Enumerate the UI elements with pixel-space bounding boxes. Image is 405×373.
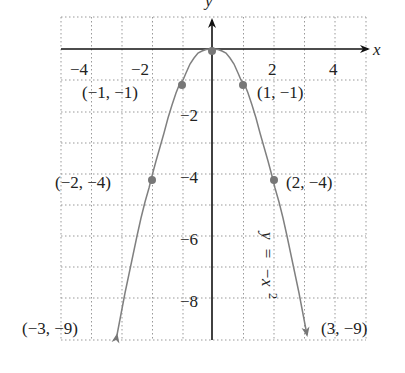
point-label: (−2, −4) <box>55 173 111 192</box>
y-tick-label: −8 <box>180 292 198 311</box>
x-tick-label: −2 <box>131 60 149 79</box>
point-label: (3, −9) <box>321 319 367 338</box>
point-p2 <box>270 176 278 184</box>
equation-y: y <box>258 230 277 240</box>
point-label: (1, −1) <box>257 83 303 102</box>
equation-exp: 2 <box>266 293 280 299</box>
point-label: (−3, −9) <box>22 319 78 338</box>
svg-text:y = −x 2: y = −x 2 <box>258 230 280 299</box>
y-tick-label: −4 <box>180 168 199 187</box>
equation-eq: = <box>258 249 277 259</box>
x-tick-label: 4 <box>329 60 338 79</box>
y-tick-label: −6 <box>180 230 198 249</box>
point-p1 <box>239 81 247 89</box>
y-axis-label: y <box>203 0 213 10</box>
point-origin <box>208 47 216 55</box>
parabola-chart: x y −4 −2 2 4 −2 −4 −6 −8 (−1, −1) (1, −… <box>0 0 405 373</box>
y-tick-label: −2 <box>180 106 198 125</box>
equation-label: y = −x 2 <box>258 230 280 299</box>
data-points <box>148 47 278 184</box>
x-axis-label: x <box>372 40 381 59</box>
point-m1 <box>178 81 186 89</box>
x-tick-label: −4 <box>70 60 89 79</box>
point-label: (2, −4) <box>286 173 332 192</box>
point-m2 <box>148 176 156 184</box>
equation-rhs: −x <box>258 268 277 287</box>
x-tick-label: 2 <box>268 60 277 79</box>
point-label: (−1, −1) <box>82 83 138 102</box>
